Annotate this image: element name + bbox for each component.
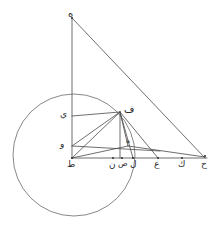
point-label-kaf: ك <box>178 160 185 169</box>
segment-hemid-to-ha <box>128 146 205 157</box>
geometry-figure: ه ي ف و ط ن ص ل ع ك ح ه <box>0 0 222 235</box>
point-label-fa: ف <box>124 104 134 114</box>
segment-ya-to-fa-horizontal <box>72 112 120 116</box>
segment-he-top-to-ha <box>72 18 205 158</box>
geometry-canvas <box>0 0 222 235</box>
segments-group <box>72 18 207 158</box>
dot-ha <box>204 155 206 157</box>
point-label-waw: و <box>60 140 64 149</box>
segment-fa-to-ta-diagonal <box>72 112 120 158</box>
point-label-nun: ن <box>109 160 116 169</box>
point-label-ya: ي <box>60 110 67 119</box>
segment-fa-to-waw-diagonal <box>72 112 120 146</box>
point-label-sad: ص <box>118 160 128 168</box>
point-label-lam: ل <box>130 160 137 169</box>
point-label-ayn: ع <box>154 160 159 169</box>
point-label-he-top: ه <box>68 9 73 19</box>
segment-fa-to-lam <box>120 112 133 158</box>
point-label-ta: ط <box>67 160 75 169</box>
point-label-he-mid: ه <box>126 137 130 145</box>
point-label-ha: ح <box>201 160 207 169</box>
